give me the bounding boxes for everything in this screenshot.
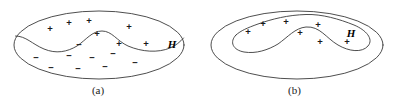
plus-marker: + xyxy=(86,15,92,26)
plus-marker: + xyxy=(94,28,100,39)
plus-marker: + xyxy=(47,23,53,34)
minus-marker: − xyxy=(102,61,108,72)
plus-marker: + xyxy=(260,18,266,29)
plus-marker: + xyxy=(245,26,251,37)
minus-marker: − xyxy=(66,50,72,61)
minus-marker: − xyxy=(76,39,82,50)
plus-marker: + xyxy=(66,17,72,28)
hypothesis-label-b: H xyxy=(346,27,356,39)
minus-marker: − xyxy=(33,52,39,63)
instance-space-ellipse-b xyxy=(211,11,383,79)
panel-a: +++++++−−−−−−−−−H (a) xyxy=(0,0,196,104)
plus-marker: + xyxy=(315,19,321,30)
figure-root: +++++++−−−−−−−−−H (a) +++++++H (b) xyxy=(0,0,393,104)
minus-marker: − xyxy=(48,62,54,73)
minus-marker: − xyxy=(132,57,138,68)
plus-marker: + xyxy=(283,16,289,27)
plus-marker: + xyxy=(143,38,149,49)
instance-space-ellipse-a xyxy=(14,11,184,79)
minus-marker: − xyxy=(75,63,81,74)
panel-b: +++++++H (b) xyxy=(196,0,393,104)
panel-b-caption: (b) xyxy=(196,84,393,97)
minus-marker: − xyxy=(89,52,95,63)
plus-marker: + xyxy=(116,38,122,49)
plus-marker: + xyxy=(297,27,303,38)
plus-marker: + xyxy=(126,21,132,32)
panel-a-caption: (a) xyxy=(0,84,196,97)
minus-marker: − xyxy=(110,48,116,59)
hypothesis-label-a: H xyxy=(167,38,177,50)
plus-marker: + xyxy=(317,36,323,47)
